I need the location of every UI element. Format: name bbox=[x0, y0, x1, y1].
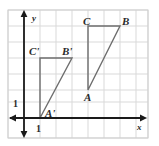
vertex-label-c: C bbox=[83, 15, 91, 27]
vertex-label-b: B bbox=[121, 15, 129, 27]
geometry-figure-container: y x 1 1 C B C' B' A A' bbox=[0, 0, 159, 146]
y-axis-tick-label: 1 bbox=[13, 98, 18, 109]
vertex-label-a: A bbox=[83, 91, 91, 103]
dilation-diagram: y x 1 1 C B C' B' A A' bbox=[0, 0, 159, 146]
vertex-label-a-prime: A' bbox=[44, 107, 55, 119]
vertex-label-b-prime: B' bbox=[61, 45, 72, 57]
x-axis-tick-label: 1 bbox=[36, 123, 41, 134]
vertex-label-c-prime: C' bbox=[29, 45, 39, 57]
x-axis-label: x bbox=[136, 122, 142, 132]
